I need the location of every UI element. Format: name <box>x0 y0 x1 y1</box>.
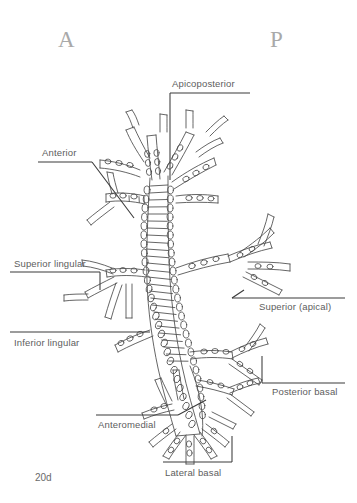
anatomical-figure: Apicoposterior Anterior Superior lingula… <box>0 0 357 503</box>
label-posterior-basal: Posterior basal <box>272 387 338 397</box>
label-anterior: Anterior <box>42 148 76 158</box>
label-superior-apical: Superior (apical) <box>259 302 331 312</box>
label-inferior-lingular: Inferior lingular <box>14 338 79 348</box>
label-anteromedial: Anteromedial <box>98 420 156 430</box>
label-apicoposterior: Apicoposterior <box>172 79 235 89</box>
label-superior-lingular: Superior lingular <box>14 259 86 269</box>
bronchial-tree-drawing <box>64 110 290 464</box>
orientation-marker-posterior: P <box>270 28 283 51</box>
figure-number: 20d <box>35 473 52 483</box>
orientation-marker-anterior: A <box>58 28 75 51</box>
bronchial-tree-illustration <box>0 0 357 503</box>
label-lateral-basal: Lateral basal <box>165 468 221 478</box>
